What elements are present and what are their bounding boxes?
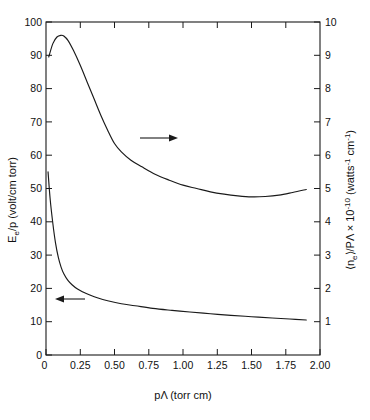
bottom-axis-tick-labels: 0 0.25 0.50 0.75 1.00 1.25 1.50 1.75 2.0…	[42, 359, 331, 371]
chart-figure: 0 10 20 30 40 50 60 70 80 90 100 1 2 3 4…	[0, 0, 370, 420]
left-tick-label: 20	[30, 282, 42, 294]
x-tick-label: 0.75	[139, 359, 160, 371]
x-tick-label: 0.50	[104, 359, 125, 371]
right-axis-title-sup1: -10	[343, 197, 352, 209]
left-tick-label: 30	[30, 249, 42, 261]
right-tick-label: 8	[325, 82, 331, 94]
x-tick-label: 1.75	[276, 359, 297, 371]
right-tick-label: 7	[325, 116, 331, 128]
right-tick-label: 4	[325, 215, 331, 227]
left-tick-label: 100	[24, 16, 42, 28]
left-axis-title-main2: /p (volt/cm torr)	[6, 157, 18, 231]
x-axis-title-text: pΛ (torr cm)	[154, 389, 211, 401]
left-tick-label: 70	[30, 116, 42, 128]
right-tick-label: 5	[325, 182, 331, 194]
right-tick-label: 3	[325, 249, 331, 261]
right-axis-title-p4: cm	[344, 141, 356, 159]
x-tick-label: 0.25	[70, 359, 91, 371]
x-tick-label: 1.00	[173, 359, 194, 371]
left-tick-label: 60	[30, 149, 42, 161]
right-axis-title-p1: ⟨n	[344, 260, 356, 270]
x-tick-label: 1.25	[207, 359, 228, 371]
x-tick-label: 1.50	[241, 359, 262, 371]
right-axis-title-p5: )	[344, 130, 356, 134]
x-tick-label: 0	[42, 359, 48, 371]
right-tick-label: 9	[325, 49, 331, 61]
bottom-axis-title: pΛ (torr cm)	[154, 389, 211, 401]
chart-background	[0, 0, 370, 420]
right-tick-label: 2	[325, 282, 331, 294]
left-tick-label: 10	[30, 315, 42, 327]
right-tick-label: 1	[325, 315, 331, 327]
right-axis-title-p2: ⟩/PΛ × 10	[344, 210, 356, 256]
left-tick-label: 50	[30, 182, 42, 194]
right-tick-label: 6	[325, 149, 331, 161]
left-tick-label: 80	[30, 82, 42, 94]
x-tick-label: 2.00	[310, 359, 331, 371]
right-axis-title-p3: (watts	[344, 165, 356, 198]
left-tick-label: 90	[30, 49, 42, 61]
left-tick-label: 40	[30, 215, 42, 227]
right-tick-label: 10	[325, 16, 337, 28]
left-axis-title-main1: E	[6, 236, 18, 243]
